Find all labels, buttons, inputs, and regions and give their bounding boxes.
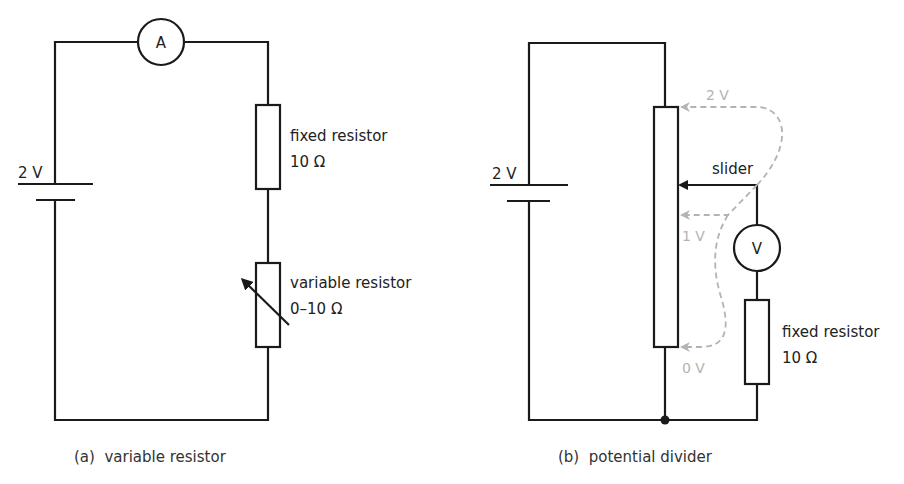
battery-a-label: 2 V bbox=[18, 164, 43, 182]
marker-0v: 0 V bbox=[682, 360, 705, 376]
battery-b-label: 2 V bbox=[492, 165, 517, 183]
wire-a-top-right bbox=[184, 42, 268, 105]
wire-b-left-top bbox=[529, 43, 665, 185]
variable-resistor-label: variable resistor bbox=[290, 274, 412, 292]
fixed-resistor-a bbox=[256, 105, 280, 189]
fixed-resistor-a-label: fixed resistor bbox=[290, 127, 388, 145]
circuit-diagrams: 2 V A fixed resistor 10 Ω variable resis… bbox=[0, 0, 904, 484]
wire-a-bottom bbox=[55, 200, 268, 420]
ammeter: A bbox=[138, 19, 184, 65]
battery-a bbox=[18, 184, 93, 200]
wire-b-right-branch bbox=[665, 384, 757, 420]
caption-a: (a) variable resistor bbox=[74, 448, 227, 466]
marker-1v: 1 V bbox=[682, 228, 705, 244]
slider-label: slider bbox=[712, 160, 754, 178]
caption-b: (b) potential divider bbox=[558, 448, 713, 466]
voltmeter: V bbox=[734, 225, 780, 271]
circuit-a: 2 V A fixed resistor 10 Ω variable resis… bbox=[18, 19, 412, 466]
wire-a-left-top bbox=[55, 42, 138, 184]
junction-dot bbox=[661, 416, 670, 425]
circuit-b: 2 V slider V fixed resistor 10 Ω 2 V 1 V… bbox=[490, 43, 880, 466]
fixed-resistor-a-value: 10 Ω bbox=[290, 153, 325, 171]
potentiometer-track bbox=[654, 107, 678, 347]
ammeter-symbol: A bbox=[156, 34, 167, 52]
voltmeter-symbol: V bbox=[752, 240, 763, 258]
fixed-resistor-b-value: 10 Ω bbox=[782, 349, 817, 367]
battery-b bbox=[490, 185, 568, 201]
wire-b-bottom bbox=[529, 201, 665, 420]
fixed-resistor-b-label: fixed resistor bbox=[782, 323, 880, 341]
marker-2v: 2 V bbox=[706, 87, 729, 103]
fixed-resistor-b bbox=[745, 300, 769, 384]
variable-resistor-value: 0–10 Ω bbox=[290, 300, 342, 318]
arrow-1v-icon bbox=[682, 185, 757, 215]
